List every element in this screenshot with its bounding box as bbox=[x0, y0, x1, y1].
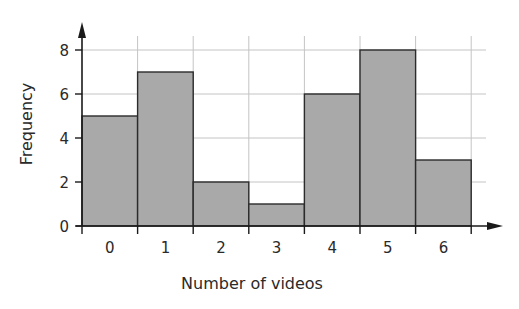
y-tick-label: 4 bbox=[59, 130, 69, 148]
bar-5 bbox=[360, 50, 416, 226]
bar-6 bbox=[416, 160, 472, 226]
bar-0 bbox=[82, 116, 138, 226]
bar-4 bbox=[304, 94, 360, 226]
x-axis-arrow-icon bbox=[487, 222, 503, 230]
y-tick-label: 6 bbox=[59, 86, 69, 104]
x-ticks: 0123456 bbox=[82, 226, 471, 257]
bar-1 bbox=[138, 72, 194, 226]
bar-3 bbox=[249, 204, 305, 226]
x-tick-label: 2 bbox=[216, 239, 226, 257]
x-tick-label: 3 bbox=[272, 239, 282, 257]
histogram-chart: 02468 0123456 Number of videos Frequency bbox=[0, 0, 519, 309]
x-axis-title: Number of videos bbox=[181, 274, 323, 293]
x-tick-label: 0 bbox=[105, 239, 115, 257]
y-tick-label: 2 bbox=[59, 174, 69, 192]
y-tick-label: 0 bbox=[59, 218, 69, 236]
bar-2 bbox=[193, 182, 249, 226]
y-axis-title: Frequency bbox=[17, 83, 36, 166]
y-tick-label: 8 bbox=[59, 42, 69, 60]
x-tick-label: 1 bbox=[161, 239, 171, 257]
x-tick-label: 6 bbox=[439, 239, 449, 257]
x-tick-label: 5 bbox=[383, 239, 393, 257]
x-tick-label: 4 bbox=[327, 239, 337, 257]
y-axis-arrow-icon bbox=[78, 22, 86, 38]
y-ticks: 02468 bbox=[59, 42, 82, 236]
